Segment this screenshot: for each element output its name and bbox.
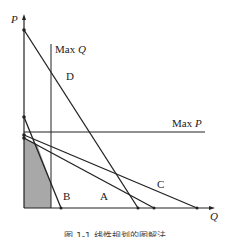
line-b-end-dot <box>60 207 63 210</box>
line-d-end-dot <box>137 207 140 210</box>
figure-caption: 图 1-1 线性规划的图解法 <box>64 230 165 237</box>
line-a-label: A <box>100 190 108 202</box>
line-d-label: D <box>66 70 74 82</box>
line-c-label: C <box>157 178 164 190</box>
line-a-end-dot <box>153 207 156 210</box>
lp-diagram: P Q Max Q Max P D B A C 图 1-1 线性规划的图解法 <box>0 0 230 237</box>
line-b-start-dot <box>22 115 26 119</box>
x-axis-label: Q <box>210 210 218 222</box>
line-b-label: B <box>63 190 70 202</box>
max-q-label: Max Q <box>55 43 86 55</box>
line-d-start-dot <box>22 28 26 32</box>
y-axis-label: P <box>10 13 18 25</box>
max-p-label: Max P <box>172 117 202 129</box>
line-c-start-dot <box>22 133 26 137</box>
y-axis-arrow-icon <box>22 14 26 20</box>
line-c-end-dot <box>196 207 199 210</box>
